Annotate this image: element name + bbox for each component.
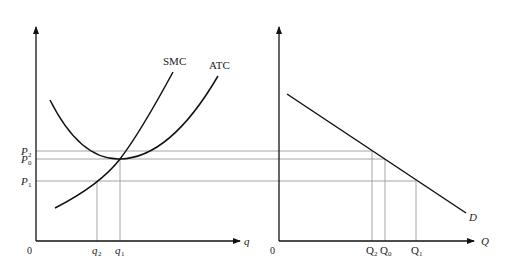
smc-curve — [55, 72, 173, 208]
svg-text:P: P — [20, 153, 28, 165]
Q0-tick-label: Q 0 — [380, 244, 392, 258]
q1-tick-label: q 1 — [115, 244, 125, 258]
smc-label: SMC — [163, 55, 186, 67]
svg-text:P: P — [20, 175, 28, 187]
demand-label: D — [468, 211, 477, 223]
Q1-tick-label: Q 1 — [411, 244, 423, 258]
svg-text:1: 1 — [121, 250, 125, 258]
svg-text:1: 1 — [419, 250, 423, 258]
svg-text:2: 2 — [98, 250, 102, 258]
svg-text:2: 2 — [28, 151, 32, 159]
right-origin-label: 0 — [270, 245, 275, 256]
svg-text:1: 1 — [28, 181, 32, 189]
q-axis-label: q — [244, 235, 250, 247]
atc-curve — [50, 76, 218, 159]
p1-tick-label: P 1 — [20, 175, 32, 189]
demand-curve — [287, 94, 466, 213]
svg-text:Q: Q — [380, 244, 388, 256]
svg-text:0: 0 — [388, 250, 392, 258]
Q2-tick-label: Q 2 — [366, 244, 378, 258]
q2-tick-label: q 2 — [92, 244, 102, 258]
svg-text:Q: Q — [411, 244, 419, 256]
svg-text:0: 0 — [28, 159, 32, 167]
atc-label: ATC — [209, 59, 230, 71]
chart-figure: SMC ATC D q Q 0 0 P 2 P 0 P 1 q 2 q 1 Q … — [0, 0, 508, 274]
chart-svg: SMC ATC D q Q 0 0 P 2 P 0 P 1 q 2 q 1 Q … — [0, 0, 508, 274]
left-origin-label: 0 — [27, 245, 32, 256]
guide-lines — [36, 151, 416, 241]
Q-axis-label: Q — [481, 235, 489, 247]
svg-text:2: 2 — [374, 250, 378, 258]
svg-text:Q: Q — [366, 244, 374, 256]
